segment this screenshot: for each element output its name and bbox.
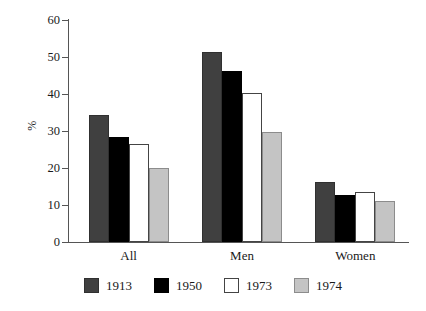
x-axis-line: [68, 242, 409, 243]
legend-item-1950[interactable]: 1950: [154, 278, 202, 293]
y-axis-tick-label: 10: [20, 199, 60, 212]
bar-1974-all: [149, 168, 169, 242]
bar-1974-women: [375, 201, 395, 242]
legend-swatch-icon-1913: [84, 278, 99, 293]
y-axis-tick-label: 0: [20, 236, 60, 249]
legend-label-1950: 1950: [176, 279, 202, 292]
legend-label-1973: 1973: [246, 279, 272, 292]
legend-label-1974: 1974: [316, 279, 342, 292]
bar-1973-all: [129, 144, 149, 242]
y-axis-tick: [62, 242, 68, 243]
legend-item-1913[interactable]: 1913: [84, 278, 132, 293]
bar-1950-women: [335, 195, 355, 242]
x-axis-label-women: Women: [315, 248, 395, 264]
y-axis-tick-label: 20: [20, 162, 60, 175]
bar-chart: % 0102030405060 AllMenWomen 191319501973…: [0, 0, 426, 311]
bar-1973-women: [355, 192, 375, 242]
plot-area: [68, 20, 408, 242]
bar-1950-all: [109, 137, 129, 242]
bar-1913-women: [315, 182, 335, 242]
bar-1913-men: [202, 52, 222, 242]
legend-swatch-icon-1950: [154, 278, 169, 293]
legend-swatch-icon-1973: [224, 278, 239, 293]
x-axis-label-men: Men: [202, 248, 282, 264]
y-axis-tick-label: 60: [20, 14, 60, 27]
y-axis-tick-label: 50: [20, 51, 60, 64]
bar-1973-men: [242, 93, 262, 242]
chart-legend: 1913195019731974: [0, 278, 426, 293]
legend-item-1974[interactable]: 1974: [294, 278, 342, 293]
legend-label-1913: 1913: [106, 279, 132, 292]
bar-1913-all: [89, 115, 109, 242]
legend-swatch-icon-1974: [294, 278, 309, 293]
bar-1974-men: [262, 132, 282, 242]
bar-1950-men: [222, 71, 242, 242]
legend-item-1973[interactable]: 1973: [224, 278, 272, 293]
x-axis-label-all: All: [89, 248, 169, 264]
y-axis-tick-label: 30: [20, 125, 60, 138]
y-axis-tick-label: 40: [20, 88, 60, 101]
